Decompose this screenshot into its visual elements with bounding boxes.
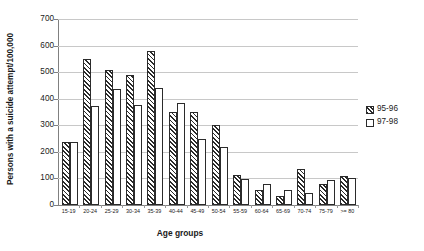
bar-group-75-79 (319, 19, 335, 205)
x-tick-40-44 (187, 205, 188, 208)
legend-label-series-1: 97-98 (377, 118, 398, 126)
x-tick-label-30-34: 30-34 (122, 209, 143, 214)
x-tick-label-60-64: 60-64 (251, 209, 272, 214)
bar-group-35-39 (147, 19, 163, 205)
x-tick-50-54 (229, 205, 230, 208)
bar-97-98-55-59 (241, 179, 249, 205)
bar-95-96-50-54 (212, 125, 220, 205)
y-tick-label-400: 400 (24, 95, 54, 103)
x-tick-75-79 (337, 205, 338, 208)
y-tick-label-700: 700 (24, 15, 54, 23)
bar-95-96-45-49 (190, 112, 198, 205)
bar-group-15-19 (62, 19, 78, 205)
bar-group-60-64 (255, 19, 271, 205)
y-tick-label-500: 500 (24, 68, 54, 76)
x-tick-label-20-24: 20-24 (79, 209, 100, 214)
bar-97-98-30-34 (134, 105, 142, 205)
x-tick-35-39 (165, 205, 166, 208)
x-tick-label-75-79: 75-79 (315, 209, 336, 214)
bar-97-98-15-19 (70, 142, 78, 205)
bar-97-98-60-64 (263, 184, 271, 205)
x-tick-60-64 (272, 205, 273, 208)
bar-97-98->= 80 (348, 178, 356, 205)
x-tick->= 80 (358, 205, 359, 208)
x-tick-label-65-69: 65-69 (272, 209, 293, 214)
bar-95-96-65-69 (276, 196, 284, 205)
bar-97-98-45-49 (198, 139, 206, 205)
chart-legend: 95-96 97-98 (366, 103, 422, 129)
y-axis-title-label: Persons with a suicide attempt/100,000 (7, 33, 15, 185)
x-tick-label-45-49: 45-49 (187, 209, 208, 214)
bar-chart: Persons with a suicide attempt/100,000 7… (0, 0, 424, 251)
bar-97-98-65-69 (284, 190, 292, 205)
x-tick-label-15-19: 15-19 (58, 209, 79, 214)
bar-95-96-75-79 (319, 184, 327, 205)
bar-group-20-24 (83, 19, 99, 205)
bar-97-98-75-79 (327, 180, 335, 205)
x-tick-70-74 (315, 205, 316, 208)
bar-97-98-50-54 (220, 147, 228, 205)
x-tick-label-70-74: 70-74 (294, 209, 315, 214)
bar-95-96-25-29 (105, 70, 113, 205)
x-tick-30-34 (144, 205, 145, 208)
bar-95-96-40-44 (169, 112, 177, 205)
x-tick-label-50-54: 50-54 (208, 209, 229, 214)
x-tick-55-59 (251, 205, 252, 208)
y-tick-label-300: 300 (24, 121, 54, 129)
bar-group-50-54 (212, 19, 228, 205)
bar-97-98-20-24 (91, 106, 99, 205)
bar-group-45-49 (190, 19, 206, 205)
bar-95-96-15-19 (62, 142, 70, 205)
y-tick-label-100: 100 (24, 174, 54, 182)
bar-97-98-40-44 (177, 103, 185, 205)
bar-95-96-30-34 (126, 75, 134, 205)
legend-label-series-0: 95-96 (377, 105, 398, 113)
x-tick-label-40-44: 40-44 (165, 209, 186, 214)
bar-group-70-74 (297, 19, 313, 205)
bar-95-96->= 80 (340, 176, 348, 205)
bar-97-98-25-29 (113, 89, 121, 205)
bar-95-96-60-64 (255, 190, 263, 205)
legend-item-series-1: 97-98 (366, 116, 422, 129)
bar-95-96-70-74 (297, 169, 305, 205)
x-tick-label->= 80: >= 80 (337, 209, 358, 214)
bar-group-40-44 (169, 19, 185, 205)
bar-group-65-69 (276, 19, 292, 205)
legend-item-series-0: 95-96 (366, 103, 422, 116)
x-tick-25-29 (122, 205, 123, 208)
x-tick-label-35-39: 35-39 (144, 209, 165, 214)
bar-95-96-20-24 (83, 59, 91, 205)
x-tick-label-55-59: 55-59 (229, 209, 250, 214)
x-tick-65-69 (294, 205, 295, 208)
bar-group-30-34 (126, 19, 142, 205)
x-tick-45-49 (208, 205, 209, 208)
bar-97-98-35-39 (155, 88, 163, 205)
bar-95-96-55-59 (233, 175, 241, 205)
legend-swatch-open-icon (366, 119, 374, 127)
y-axis-tick-labels: 7006005004003002001000 (18, 0, 54, 206)
x-axis-title: Age groups (0, 228, 360, 238)
plot-bars (58, 19, 358, 205)
y-tick-label-600: 600 (24, 42, 54, 50)
bar-group-25-29 (105, 19, 121, 205)
bar-97-98-70-74 (305, 193, 313, 205)
bar-group->= 80 (340, 19, 356, 205)
bar-95-96-35-39 (147, 51, 155, 205)
bar-group-55-59 (233, 19, 249, 205)
y-tick-label-0: 0 (24, 201, 54, 209)
x-tick-label-25-29: 25-29 (101, 209, 122, 214)
y-tick-label-200: 200 (24, 148, 54, 156)
x-tick-20-24 (101, 205, 102, 208)
x-tick-15-19 (79, 205, 80, 208)
legend-swatch-hatched-icon (366, 106, 374, 114)
